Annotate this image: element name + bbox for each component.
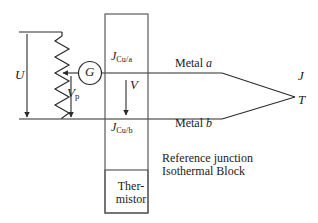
metal-a-symbol: a xyxy=(206,56,212,70)
metal-a-label: Metal a xyxy=(175,57,212,70)
current-cu-b-label: JCu/b xyxy=(111,121,133,135)
metal-b-label: Metal b xyxy=(175,117,212,130)
metal-b-symbol: b xyxy=(206,116,212,130)
metal-a-slope xyxy=(222,73,295,97)
vp-main: V xyxy=(67,85,75,100)
galvanometer-symbol: G xyxy=(85,64,94,79)
junction-temperature-label: T xyxy=(298,93,305,108)
zigzag-resistor xyxy=(55,32,69,119)
thermocouple-schematic-figure: U Vp V JCu/a JCu/b Metal a Metal b J T R… xyxy=(0,0,318,223)
thermistor-line2: mistor xyxy=(112,193,150,206)
galvanometer-label: G xyxy=(85,65,94,80)
current-cu-b-subscript: Cu/b xyxy=(116,126,132,135)
current-cu-a-subscript: Cu/a xyxy=(116,55,132,64)
metal-b-word: Metal xyxy=(175,116,203,130)
junction-current-label: J xyxy=(298,69,304,84)
current-cu-a-label: JCu/a xyxy=(111,50,132,64)
metal-a-word: Metal xyxy=(175,56,203,70)
isothermal-block-line2: Isothermal Block xyxy=(162,165,253,178)
thermistor-label: Ther- mistor xyxy=(112,180,150,207)
reference-junction-line1: Reference junction xyxy=(162,152,253,165)
voltage-v-label: V xyxy=(130,78,138,93)
voltage-u-label: U xyxy=(15,68,24,83)
reference-junction-caption: Reference junction Isothermal Block xyxy=(162,152,253,179)
schematic-vector-layer xyxy=(0,0,318,223)
voltage-vp-label: Vp xyxy=(67,86,79,102)
vp-subscript: p xyxy=(75,91,80,101)
thermistor-line1: Ther- xyxy=(112,180,150,193)
metal-b-slope xyxy=(222,97,295,119)
